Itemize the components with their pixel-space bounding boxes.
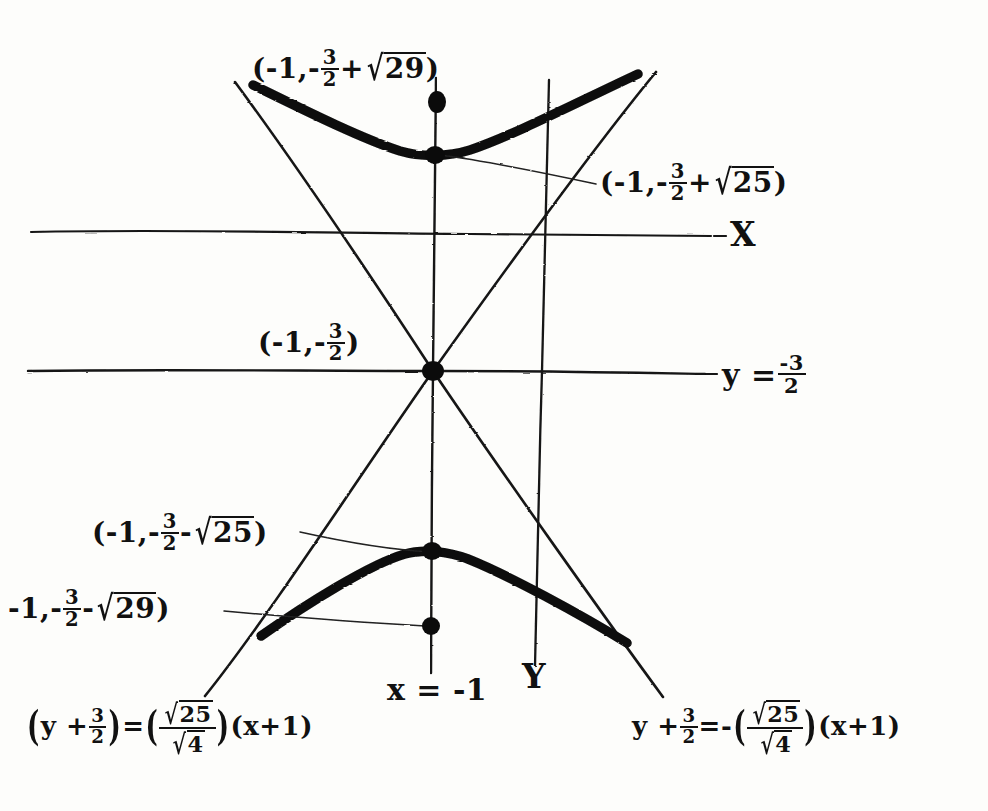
label-upper-vertex: (-1,-32+√25) <box>600 162 787 204</box>
paren-close-slope: ) <box>803 706 818 746</box>
label-upper-focus: (-1,-32+√29) <box>252 48 439 90</box>
sign: - <box>148 516 160 549</box>
fraction-three-halves: 32 <box>63 588 81 630</box>
radical-25: √25 <box>712 166 774 197</box>
paren-open: ( <box>252 52 266 85</box>
linear-factor: (x+1) <box>818 711 900 741</box>
radical-sign-icon: √ <box>367 52 384 86</box>
x-axis-label: X <box>730 218 756 251</box>
fraction-three-halves: 32 <box>161 512 179 554</box>
paren-open-slope: ( <box>145 706 160 746</box>
label-y-equals-minus-three-halves: y =-32 <box>722 352 807 397</box>
radical-sign-icon: √ <box>173 731 187 759</box>
sign: - <box>656 166 668 199</box>
paren-close: ) <box>156 592 170 625</box>
equation-asymptote-negative: y +32=-(√25√4)(x+1) <box>632 700 901 757</box>
x-coordinate: -1, <box>266 52 308 85</box>
x-coordinate: -1, <box>106 516 148 549</box>
center-horizontal-line <box>28 370 705 374</box>
linear-factor: (x+1) <box>230 711 312 741</box>
radical-25: √25 <box>162 700 212 726</box>
slope-denominator: √4 <box>747 729 803 756</box>
hyperbola-drawing <box>0 0 988 811</box>
radical-sign-icon: √ <box>195 516 212 550</box>
radical-29: √29 <box>364 52 426 83</box>
point-upper-vertex <box>425 146 445 164</box>
paren-close: ) <box>346 326 360 359</box>
paren-close: ) <box>774 166 788 199</box>
equals-sign: = <box>699 711 721 741</box>
paren-open: ( <box>26 706 41 746</box>
y-equals-text: y = <box>722 357 777 392</box>
sign: - <box>308 52 320 85</box>
paren-close-slope: ) <box>216 706 231 746</box>
hyperbola-lower-branch <box>261 551 627 643</box>
radical-sign-icon: √ <box>165 700 179 728</box>
point-lower-vertex <box>422 542 442 560</box>
slope-fraction: √25√4 <box>747 700 803 757</box>
y-axis-line <box>535 80 549 666</box>
x-coordinate: -1, <box>8 592 50 625</box>
slope-numerator: √25 <box>159 700 215 729</box>
radical-4: √4 <box>758 730 792 756</box>
x-axis-line <box>31 231 711 236</box>
x-coordinate: -1, <box>614 166 656 199</box>
figure-canvas: (-1,-32+√29) (-1,-32+√25) (-1,-32) (-1,-… <box>0 0 988 811</box>
slope-fraction: √25√4 <box>159 700 215 757</box>
radical-25: √25 <box>192 516 254 547</box>
paren-open: ( <box>92 516 106 549</box>
leader-line-lower-focus <box>224 611 425 626</box>
fraction-three-halves: 32 <box>669 162 687 204</box>
radical-29: √29 <box>94 592 156 623</box>
equals-sign: = <box>122 711 144 741</box>
paren-open-slope: ( <box>732 706 747 746</box>
sign: - <box>50 592 62 625</box>
leader-line-upper-vertex <box>440 155 596 184</box>
label-center-point: (-1,-32) <box>258 322 360 364</box>
operator: - <box>82 592 94 625</box>
slope-numerator: √25 <box>747 700 803 729</box>
radical-sign-icon: √ <box>97 592 114 626</box>
lhs-variable: y + <box>41 711 88 741</box>
radical-sign-icon: √ <box>753 700 767 728</box>
radical-sign-icon: √ <box>715 166 732 200</box>
slope-sign: - <box>721 711 732 741</box>
fraction-minus-three-halves: -32 <box>778 352 806 397</box>
fraction-three-halves: 32 <box>680 707 697 746</box>
paren-open: ( <box>258 326 272 359</box>
slope-denominator: √4 <box>159 729 215 756</box>
lhs-variable: y + <box>632 711 679 741</box>
label-x-equals-minus-one: x = -1 <box>387 675 487 705</box>
y-axis-label: Y <box>522 660 546 693</box>
operator: + <box>340 52 364 85</box>
paren-close: ) <box>254 516 268 549</box>
radical-25: √25 <box>750 700 800 726</box>
point-upper-focus <box>428 91 446 113</box>
point-center <box>422 361 444 381</box>
radical-sign-icon: √ <box>761 731 775 759</box>
paren-close: ) <box>107 706 122 746</box>
label-lower-focus: -1,-32-√29) <box>8 588 170 630</box>
operator: + <box>688 166 712 199</box>
fraction-three-halves: 32 <box>89 707 106 746</box>
equation-asymptote-positive: (y +32)=(√25√4)(x+1) <box>26 700 313 757</box>
paren-open: ( <box>600 166 614 199</box>
fraction-three-halves: 32 <box>327 322 345 364</box>
x-coordinate: -1, <box>272 326 314 359</box>
fraction-three-halves: 32 <box>321 48 339 90</box>
sign: - <box>314 326 326 359</box>
operator: - <box>180 516 192 549</box>
label-lower-vertex: (-1,-32-√25) <box>92 512 268 554</box>
radical-4: √4 <box>170 730 204 756</box>
paren-close: ) <box>426 52 440 85</box>
point-lower-focus <box>422 617 440 635</box>
